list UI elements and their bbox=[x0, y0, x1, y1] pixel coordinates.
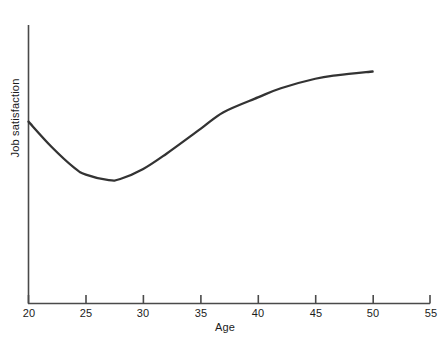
job-satisfaction-age-chart: 20 25 30 35 40 45 50 55 Age Job satisfac… bbox=[0, 0, 448, 344]
x-tick-label-55: 55 bbox=[416, 307, 446, 319]
satisfaction-curve-line bbox=[29, 72, 373, 181]
x-axis-ticks bbox=[29, 295, 431, 304]
x-tick-label-35: 35 bbox=[186, 307, 216, 319]
x-tick-label-45: 45 bbox=[301, 307, 331, 319]
x-tick-label-25: 25 bbox=[71, 307, 101, 319]
x-tick-label-30: 30 bbox=[128, 307, 158, 319]
x-tick-label-50: 50 bbox=[358, 307, 388, 319]
x-axis-title: Age bbox=[195, 321, 255, 333]
plot-area bbox=[0, 0, 448, 344]
x-tick-label-40: 40 bbox=[243, 307, 273, 319]
y-axis-title: Job satisfaction bbox=[9, 70, 21, 166]
x-tick-label-20: 20 bbox=[14, 307, 44, 319]
